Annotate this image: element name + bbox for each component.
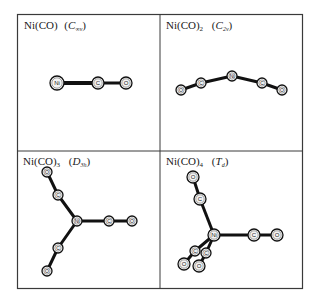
atom-c: C [194,193,206,205]
atom-label: C [56,192,60,198]
symmetry-main: D [72,155,81,167]
atom-label: C [193,248,197,254]
atom-o: O [277,85,287,95]
symmetry-sub: 3h [79,162,86,168]
atom-label: O [280,87,284,93]
atom-label: C [260,80,264,86]
formula-subscript: 2 [200,25,204,33]
atom-o: O [178,258,190,270]
atom-o: O [120,77,132,89]
atom-label: Ni [230,73,235,79]
panel-label-ni-co-4: Ni(CO)4 (Td) [166,155,229,169]
formula-text: Ni(CO) [24,19,58,32]
atom-label: C [96,80,101,86]
atom-label: C [56,245,60,251]
atom-ni: Ni [50,76,64,90]
atom-label: O [124,80,129,86]
nickel-carbonyl-structures-diagram: Ni(CO) (C∞v) Ni(CO)2 (C2v) Ni(CO)3 (D3h)… [0,0,317,303]
atom-label: O [197,263,202,269]
atom-label: C [204,250,208,256]
svg-text:Ni(CO)2 (C2v): Ni(CO)2 (C2v) [166,19,233,33]
atom-c: C [257,78,267,88]
atom-label: O [275,232,280,238]
atom-label: Ni [75,218,80,224]
atom-label: C [199,80,203,86]
atom-label: O [130,218,134,224]
atom-c: C [248,229,260,241]
atom-c: C [196,78,206,88]
atom-label: C [198,196,203,202]
atom-label: C [107,218,111,224]
atom-label: Ni [211,232,217,238]
atom-label: O [179,87,183,93]
formula-subscript: 4 [200,161,204,169]
atom-o: O [193,260,205,272]
atom-o: O [42,266,52,276]
atom-o: O [127,216,137,226]
atom-label: C [252,232,257,238]
panel-label-ni-co-2: Ni(CO)2 (C2v) [166,19,233,33]
atom-ni: Ni [227,71,237,81]
atom-o: O [42,167,52,177]
formula-text: Ni(CO) [23,155,57,168]
atom-ni: Ni [208,229,220,241]
formula-subscript: 3 [57,161,61,169]
atom-label: O [182,261,187,267]
atom-label: Ni [54,80,60,86]
formula-text: Ni(CO) [166,155,200,168]
atom-c: C [53,190,63,200]
formula-text: Ni(CO) [166,19,200,32]
atom-c: C [53,243,63,253]
atom-o: O [187,171,199,183]
svg-text:Ni(CO)4 (Td): Ni(CO)4 (Td) [166,155,229,169]
atom-ni: Ni [72,216,82,226]
atom-c: C [190,246,200,256]
atom-label: O [45,268,49,274]
atom-label: O [45,169,49,175]
atom-o: O [176,85,186,95]
atom-c: C [92,77,104,89]
atom-o: O [271,229,283,241]
atom-c: C [104,216,114,226]
atom-c: C [201,248,211,258]
atom-label: O [191,174,196,180]
